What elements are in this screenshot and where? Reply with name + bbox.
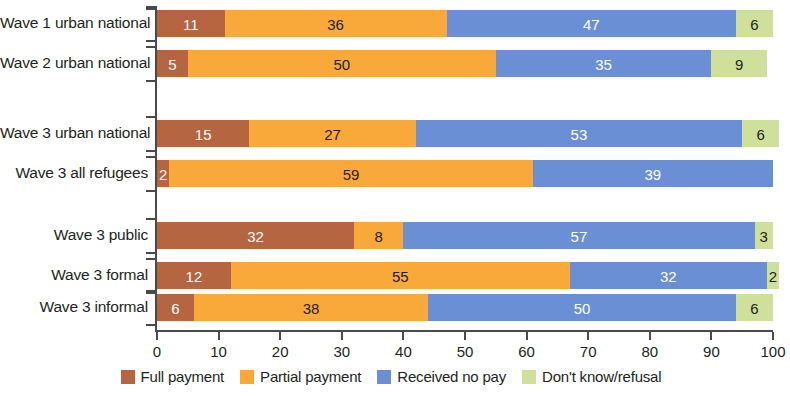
bar-segment-value: 6	[736, 300, 773, 315]
bar-segment: 38	[194, 294, 428, 321]
bar-row: 25939	[157, 160, 773, 187]
x-axis-tick-label: 20	[255, 343, 305, 360]
y-axis-tick	[146, 258, 155, 260]
bar-segment-value: 53	[416, 126, 742, 141]
bar-segment: 3	[755, 222, 773, 249]
y-axis-tick	[146, 46, 155, 48]
x-axis-tick	[218, 332, 220, 340]
legend-swatch-icon	[522, 370, 536, 384]
bar-segment-value: 50	[188, 56, 496, 71]
legend-item[interactable]: Received no pay	[377, 368, 506, 385]
bar-segment: 36	[225, 10, 447, 37]
bar-segment: 32	[157, 222, 354, 249]
bar-segment: 5	[157, 50, 188, 77]
bar-segment-value: 6	[736, 16, 773, 31]
category-label: Wave 3 formal	[0, 266, 148, 284]
bar-segment-value: 27	[249, 126, 415, 141]
legend-swatch-icon	[377, 370, 391, 384]
x-axis-tick-label: 40	[378, 343, 428, 360]
legend-item[interactable]: Full payment	[121, 368, 224, 385]
bar-segment: 12	[157, 262, 231, 289]
category-label: Wave 1 urban national	[0, 14, 148, 32]
x-axis-tick	[279, 332, 281, 340]
bar-row: 550359	[157, 50, 773, 77]
bar-segment-value: 2	[767, 268, 779, 283]
bar-segment-value: 9	[711, 56, 766, 71]
x-axis-tick	[587, 332, 589, 340]
x-axis-tick	[156, 332, 158, 340]
legend-label: Received no pay	[397, 368, 506, 385]
bar-segment: 47	[447, 10, 737, 37]
x-axis-tick	[710, 332, 712, 340]
chart-legend: Full paymentPartial paymentReceived no p…	[0, 368, 782, 385]
bar-segment: 53	[416, 120, 742, 147]
bar-segment-value: 55	[231, 268, 570, 283]
y-axis-tick	[146, 292, 155, 294]
y-axis-tick	[146, 190, 155, 192]
bar-segment: 35	[496, 50, 712, 77]
bar-segment-value: 32	[157, 228, 354, 243]
bar-segment-value: 47	[447, 16, 737, 31]
y-axis-tick	[146, 218, 155, 220]
bar-segment-value: 35	[496, 56, 712, 71]
bar-segment: 15	[157, 120, 249, 147]
legend-swatch-icon	[240, 370, 254, 384]
y-axis-tick	[146, 116, 155, 118]
x-axis-tick-label: 0	[132, 343, 182, 360]
bar-segment: 39	[533, 160, 773, 187]
bar-segment: 8	[354, 222, 403, 249]
bar-segment: 11	[157, 10, 225, 37]
legend-item[interactable]: Don't know/refusal	[522, 368, 661, 385]
x-axis-tick-label: 90	[686, 343, 736, 360]
x-axis-tick	[526, 332, 528, 340]
bar-segment: 2	[157, 160, 169, 187]
bar-segment-value: 38	[194, 300, 428, 315]
x-axis-tick	[464, 332, 466, 340]
y-axis-tick	[146, 150, 155, 152]
x-axis-tick-label: 10	[194, 343, 244, 360]
bar-segment-value: 36	[225, 16, 447, 31]
y-axis-tick	[146, 156, 155, 158]
y-axis-tick	[146, 8, 155, 10]
y-axis-tick	[146, 252, 155, 254]
bar-segment-value: 50	[428, 300, 736, 315]
category-label: Wave 3 all refugees	[0, 164, 148, 182]
bar-segment-value: 2	[157, 166, 169, 181]
bar-row: 1255322	[157, 262, 773, 289]
bar-segment: 50	[188, 50, 496, 77]
bar-segment-value: 59	[169, 166, 532, 181]
bar-row: 328573	[157, 222, 773, 249]
x-axis-tick-label: 70	[563, 343, 613, 360]
y-axis-tick	[146, 40, 155, 42]
category-label: Wave 2 urban national	[0, 54, 148, 72]
bar-segment-value: 8	[354, 228, 403, 243]
x-axis-tick-label: 50	[440, 343, 490, 360]
bar-segment: 50	[428, 294, 736, 321]
x-axis-tick-label: 30	[317, 343, 367, 360]
x-axis-tick-label: 100	[748, 343, 790, 360]
legend-swatch-icon	[121, 370, 135, 384]
bar-segment-value: 3	[755, 228, 773, 243]
bar-segment-value: 6	[742, 126, 779, 141]
bar-segment-value: 32	[570, 268, 767, 283]
bar-segment: 6	[157, 294, 194, 321]
bar-segment-value: 39	[533, 166, 773, 181]
y-axis-tick	[146, 290, 155, 292]
bar-segment: 6	[742, 120, 779, 147]
bar-row: 638506	[157, 294, 773, 321]
x-axis-tick	[649, 332, 651, 340]
legend-label: Don't know/refusal	[542, 368, 661, 385]
bar-segment-value: 15	[157, 126, 249, 141]
bar-segment: 32	[570, 262, 767, 289]
category-label: Wave 3 informal	[0, 298, 148, 316]
bar-segment: 2	[767, 262, 779, 289]
bar-segment: 6	[736, 294, 773, 321]
bar-row: 1527536	[157, 120, 773, 147]
category-label: Wave 3 urban national	[0, 124, 148, 142]
x-axis-tick	[772, 332, 774, 340]
legend-label: Full payment	[141, 368, 224, 385]
bar-segment: 57	[403, 222, 754, 249]
bar-segment-value: 11	[157, 16, 225, 31]
legend-item[interactable]: Partial payment	[240, 368, 361, 385]
